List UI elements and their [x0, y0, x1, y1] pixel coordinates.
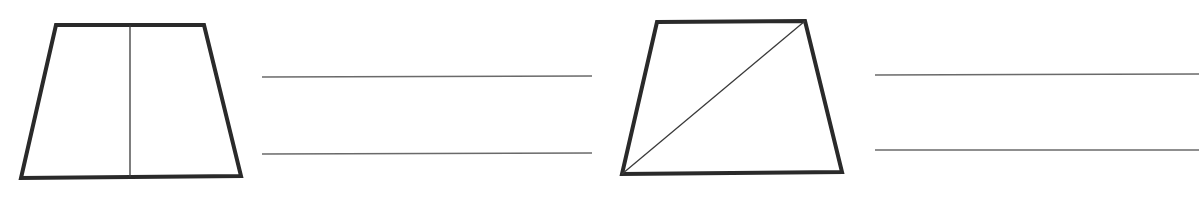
answer-line-2a[interactable] — [875, 74, 1199, 75]
trapezoid-2 — [622, 21, 842, 174]
answer-line-1a[interactable] — [262, 76, 592, 77]
trapezoid-1 — [21, 25, 241, 178]
diagonal-divider — [622, 21, 805, 174]
answer-line-1b[interactable] — [262, 153, 592, 154]
figure-2 — [622, 21, 1199, 174]
worksheet-canvas — [0, 0, 1201, 201]
figure-1 — [21, 25, 592, 178]
